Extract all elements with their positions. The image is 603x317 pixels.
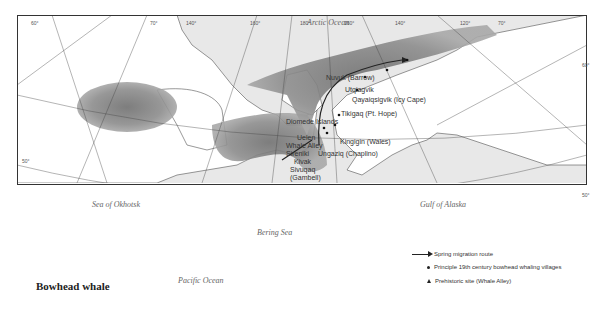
place-gambell: (Gambell) (290, 174, 321, 181)
degree-50-right: 50° (582, 192, 590, 198)
range-okhotsk (77, 82, 177, 132)
ocean-label-pacific: Pacific Ocean (178, 276, 224, 285)
place-qayaiqsigvik: Qayaiqsigvik (Icy Cape) (352, 96, 426, 103)
place-nuvuk: Nuvuk (Barrow) (326, 74, 375, 81)
ocean-label-alaska: Gulf of Alaska (420, 200, 466, 209)
legend-label-prehistoric: Prehistoric site (Whale Alley) (435, 278, 511, 284)
degree-70-right: 70° (498, 20, 506, 26)
degree-160-left: 160° (250, 20, 260, 26)
degree-160-right: 160° (344, 20, 354, 26)
place-tikigaq: Tikigaq (Pt. Hope) (341, 110, 397, 117)
place-diomede: Diomede Islands (286, 118, 338, 125)
map-title: Bowhead whale (36, 280, 110, 292)
place-uelen: Uelen (297, 134, 315, 141)
degree-180: 180° (300, 20, 310, 26)
degree-60-right: 60° (582, 62, 590, 68)
place-sireniki: Sireniki (286, 150, 309, 157)
place-ungaziq: Ungaziq (Chaplino) (318, 150, 378, 157)
degree-120-right: 120° (460, 20, 470, 26)
ocean-label-bering: Bering Sea (257, 228, 292, 237)
degree-140-right: 140° (395, 20, 405, 26)
legend-prehistoric: Prehistoric site (Whale Alley) (427, 278, 511, 284)
triangle-icon (427, 279, 431, 283)
legend-label-migration: Spring migration route (434, 251, 493, 257)
ocean-label-okhotsk: Sea of Okhotsk (92, 200, 140, 209)
legend-migration: Spring migration route (412, 251, 493, 257)
place-whale-alley: Whale Alley (286, 142, 323, 149)
degree-60-left: 60° (31, 20, 39, 26)
place-kivak: Kivak (294, 158, 311, 165)
arrow-icon (412, 254, 430, 255)
degree-140-left: 140° (186, 20, 196, 26)
ocean-label-arctic: Arctic Ocean (307, 18, 349, 27)
legend-label-villages: Principle 19th century bowhead whaling v… (434, 264, 561, 270)
legend-villages: Principle 19th century bowhead whaling v… (427, 264, 561, 270)
place-sivuqaq: Sivuqaq (290, 166, 315, 173)
place-utqiagvik: Utqiagvik (345, 86, 374, 93)
dot-icon (427, 266, 430, 269)
degree-70-left: 70° (150, 20, 158, 26)
place-kingigin: Kingigin (Wales) (340, 138, 391, 145)
degree-50-left: 50° (22, 158, 30, 164)
